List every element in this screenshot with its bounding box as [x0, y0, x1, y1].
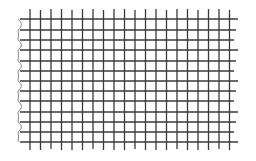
grid-diagram [0, 0, 256, 161]
horizontal-grid-lines [20, 19, 238, 142]
